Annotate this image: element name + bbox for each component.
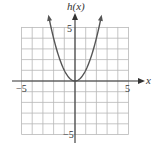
x-axis-label: x bbox=[146, 75, 151, 85]
arrowhead-icon bbox=[98, 15, 103, 21]
function-graph bbox=[0, 0, 160, 151]
y-axis-label: h(x) bbox=[67, 1, 85, 11]
y-tick-label-max: 5 bbox=[67, 24, 72, 34]
x-tick-label-max: 5 bbox=[125, 84, 130, 94]
arrowhead-icon bbox=[47, 15, 52, 21]
x-tick-label-min: −5 bbox=[16, 84, 27, 94]
y-tick-label-min: −5 bbox=[63, 130, 74, 140]
